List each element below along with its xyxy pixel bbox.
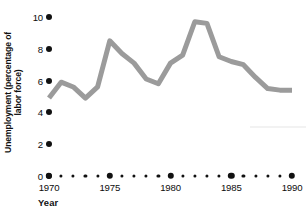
- x-tick-label: 1970: [39, 182, 60, 193]
- x-axis-title: Year: [38, 197, 58, 208]
- unemployment-line-chart: Unemployment (percentage of labor force)…: [0, 0, 308, 219]
- x-tick-label: 1990: [282, 182, 303, 193]
- x-tick-label: 1980: [160, 182, 181, 193]
- x-tick-label: 1975: [99, 182, 120, 193]
- x-tick-label: 1985: [221, 182, 242, 193]
- x-axis-tick-labels: 19701975198019851990: [0, 0, 308, 219]
